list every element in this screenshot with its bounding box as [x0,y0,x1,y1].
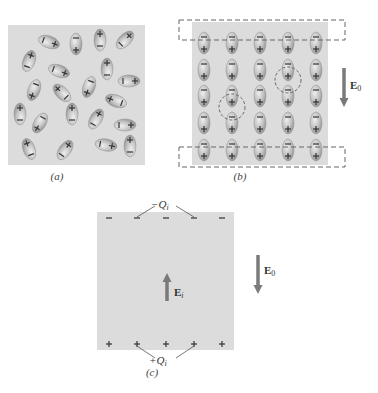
polar-molecule [226,59,238,81]
external-field-label-c: E0 [264,264,275,278]
polar-molecule [198,139,210,161]
polar-molecule [282,85,294,107]
panel-a-random-dipoles [8,25,145,165]
external-field-arrow-head [340,98,349,107]
induced-field-label: Ei [174,286,184,300]
field-subscript: i [181,291,183,300]
polar-molecule [310,59,322,81]
charge-subscript: i [164,359,166,368]
polar-molecule [310,112,322,134]
polar-molecule [198,85,210,107]
field-subscript: 0 [357,84,361,93]
polar-molecule [118,75,140,87]
polar-molecule [70,33,82,55]
polar-molecule [282,32,294,54]
field-subscript: 0 [271,269,275,278]
polar-molecule [198,112,210,134]
polar-molecule [226,85,238,107]
external-field-arrow-head [254,285,263,294]
caption-b: (b) [220,170,260,182]
polar-molecule [254,32,266,54]
polar-molecule [254,85,266,107]
charge-symbol: −Q [151,198,166,210]
polar-molecule [310,85,322,107]
polar-molecule [198,32,210,54]
external-field-label-b: E0 [350,79,361,93]
panel-b-aligned-dipoles [179,20,349,167]
polar-molecule [14,103,26,125]
polar-molecule [114,119,136,131]
polar-molecule [282,112,294,134]
polar-molecule [310,32,322,54]
charge-subscript: i [166,203,168,212]
polar-molecule [254,139,266,161]
positive-charge-label: +Qi [149,354,167,368]
charge-symbol: +Q [149,354,164,366]
polar-molecule [282,59,294,81]
negative-charge-label: −Qi [151,198,169,212]
polar-molecule [310,139,322,161]
polar-molecule [254,59,266,81]
polar-molecule [226,112,238,134]
polar-molecule [94,29,106,51]
polar-molecule [254,112,266,134]
polar-molecule [198,59,210,81]
polar-molecule [66,103,78,125]
polar-molecule [124,135,136,157]
polar-molecule [101,58,113,80]
panel-c-surface-charges [97,206,263,358]
polar-molecule [282,139,294,161]
polar-molecule [226,139,238,161]
polar-molecule [226,32,238,54]
caption-a: (a) [37,170,77,182]
dielectric-polarization-diagram [0,0,378,393]
